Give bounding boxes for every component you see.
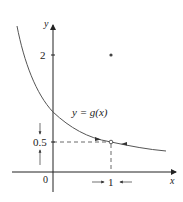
- open-circle-hole: [109, 140, 113, 144]
- curve-g: [17, 26, 166, 151]
- y-tick-label-0.5: 0.5: [33, 136, 47, 148]
- y-axis-label: y: [43, 18, 49, 29]
- y-tick-0.5: 0.5: [33, 136, 55, 148]
- origin-label: 0: [43, 174, 48, 185]
- filled-dot-g1: [109, 53, 112, 56]
- function-label: y = g(x): [71, 106, 108, 119]
- dashed-guides: [53, 142, 111, 172]
- x-axis-label: x: [169, 175, 175, 186]
- limit-diagram: y x 0 2 0.5 1 y = g(x): [0, 0, 183, 202]
- x-tick-label-1: 1: [108, 176, 114, 188]
- y-tick-label-2: 2: [40, 49, 46, 61]
